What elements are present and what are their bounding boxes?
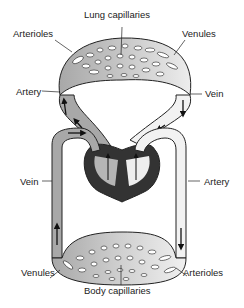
- label-body-capillaries: Body capillaries: [84, 286, 151, 296]
- lung-capillary-bed: [59, 38, 191, 95]
- label-artery-right: Artery: [204, 177, 229, 187]
- label-venules-top: Venules: [182, 29, 216, 39]
- circulation-drawing: [0, 0, 244, 308]
- label-arterioles-top: Arterioles: [13, 29, 53, 39]
- label-arterioles-bottom: Arterioles: [183, 268, 223, 278]
- label-venules-bottom: Venules: [21, 268, 55, 278]
- circulatory-diagram: Lung capillaries Arterioles Venules Arte…: [0, 0, 244, 308]
- pulmonary-artery: [59, 95, 112, 150]
- label-vein-left: Vein: [20, 177, 39, 187]
- label-lung-capillaries: Lung capillaries: [84, 10, 150, 20]
- label-artery-left: Artery: [16, 87, 41, 97]
- heart: [84, 144, 160, 202]
- label-vein-right: Vein: [205, 89, 224, 99]
- body-capillary-bed: [52, 232, 186, 285]
